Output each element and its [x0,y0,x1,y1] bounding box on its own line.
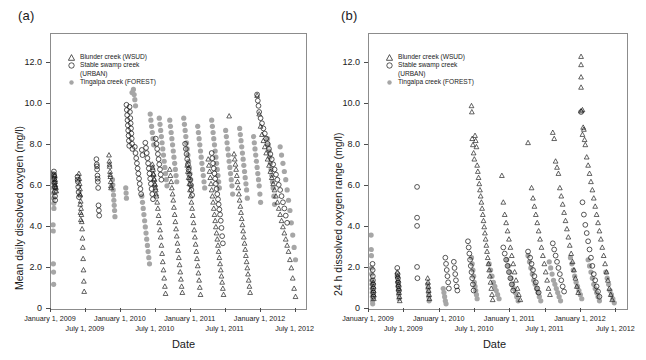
legend-label-wsud: Blunder creek (WSUD) [398,53,465,61]
legend-label-urban-2: (URBAN) [398,70,457,78]
x-tick-mark [368,308,369,312]
legend-item-forest: Tingalpa creek (FOREST) [386,78,474,86]
series-filled-circle [369,233,617,307]
x-tick-label: January 1, 2009 [24,314,76,323]
x-tick-label: January 1, 2012 [234,314,286,323]
y-tick-label: 2.0 [330,262,360,272]
x-tick-label: January 1, 2011 [484,314,535,323]
y-tick-mark [46,185,50,186]
y-tick-label: 0 [330,303,360,313]
legend-label-wsud: Blunder creek (WSUD) [80,53,147,61]
x-tick-mark [120,308,121,312]
x-tick-label: July 1, 2012 [275,324,314,333]
y-tick-label: 12.0 [12,57,42,67]
y-tick-mark [46,144,50,145]
x-tick-label: January 1, 2012 [554,314,606,323]
y-tick-label: 12.0 [330,57,360,67]
legend-label-urban-wrap: Stable swamp creek (URBAN) [80,61,139,78]
open-triangle-icon [386,53,398,61]
y-tick-label: 10.0 [12,98,42,108]
x-tick-label: July 1, 2010 [135,324,174,333]
y-tick-mark [46,62,50,63]
legend-label-forest: Tingalpa creek (FOREST) [398,78,474,86]
y-tick-mark [364,226,368,227]
x-tick-label: January 1, 2011 [164,314,215,323]
x-tick-label: January 1, 2010 [413,314,465,323]
legend-label-urban-1: Stable swamp creek [398,61,457,69]
legend-label-urban-2: (URBAN) [80,70,139,78]
x-tick-mark [474,308,475,312]
panel-a: (a) Mean daily dissolved oxygen (mg/l) 0… [0,0,323,360]
x-tick-mark [615,308,616,312]
panel-b: (b) 24 h dissolved oxygen range (mg/l) 0… [323,0,646,360]
x-tick-label: July 1, 2010 [455,324,494,333]
legend-item-forest: Tingalpa creek (FOREST) [68,78,156,86]
legend-item-wsud: Blunder creek (WSUD) [68,53,156,61]
x-tick-label: July 1, 2011 [526,324,564,333]
x-tick-mark [225,308,226,312]
open-circle-icon [386,61,398,69]
legend-label-urban-1: Stable swamp creek [80,61,139,69]
x-tick-mark [509,308,510,312]
x-tick-mark [85,308,86,312]
series-open-triangle [371,54,615,303]
legend-item-urban: Stable swamp creek (URBAN) [386,61,474,78]
y-tick-label: 4.0 [330,221,360,231]
x-tick-label: January 1, 2010 [94,314,146,323]
series-filled-circle [51,87,298,287]
panel-b-label: (b) [341,8,358,23]
x-tick-mark [580,308,581,312]
x-tick-label: July 1, 2011 [206,324,244,333]
y-tick-label: 4.0 [12,221,42,231]
panel-a-legend: Blunder creek (WSUD) Stable swamp creek … [68,53,156,87]
legend-label-urban-wrap: Stable swamp creek (URBAN) [398,61,457,78]
y-tick-label: 0 [12,303,42,313]
y-tick-mark [364,103,368,104]
x-tick-label: July 1, 2009 [66,324,105,333]
legend-item-wsud: Blunder creek (WSUD) [386,53,474,61]
figure-container: (a) Mean daily dissolved oxygen (mg/l) 0… [0,0,646,360]
open-triangle-icon [68,53,80,61]
y-tick-mark [364,144,368,145]
y-tick-label: 6.0 [12,180,42,190]
x-tick-mark [155,308,156,312]
legend-label-forest: Tingalpa creek (FOREST) [80,78,156,86]
y-tick-mark [46,226,50,227]
x-tick-label: January 1, 2009 [342,314,394,323]
x-tick-mark [403,308,404,312]
y-tick-mark [364,185,368,186]
panel-a-x-axis-label: Date [22,338,345,350]
panel-b-x-axis-label: Date [333,338,646,350]
y-tick-mark [364,62,368,63]
filled-circle-icon [386,78,398,86]
x-tick-mark [295,308,296,312]
y-tick-label: 6.0 [330,180,360,190]
filled-circle-icon [68,78,80,86]
x-tick-label: July 1, 2009 [384,324,423,333]
panel-a-label: (a) [18,8,35,23]
y-tick-label: 8.0 [12,139,42,149]
x-tick-mark [545,308,546,312]
x-tick-label: July 1, 2012 [596,324,635,333]
legend-item-urban: Stable swamp creek (URBAN) [68,61,156,78]
y-tick-mark [364,267,368,268]
x-tick-mark [439,308,440,312]
y-tick-label: 10.0 [330,98,360,108]
y-tick-mark [46,267,50,268]
y-tick-label: 2.0 [12,262,42,272]
y-tick-label: 8.0 [330,139,360,149]
x-tick-mark [50,308,51,312]
series-open-circle [370,110,602,300]
y-tick-mark [46,103,50,104]
x-tick-mark [260,308,261,312]
panel-b-legend: Blunder creek (WSUD) Stable swamp creek … [386,53,474,87]
open-circle-icon [68,61,80,69]
x-tick-mark [190,308,191,312]
